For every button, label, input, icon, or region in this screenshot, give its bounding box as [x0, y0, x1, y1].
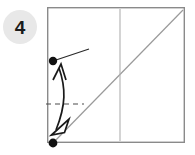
diagram-canvas: 4 — [0, 0, 195, 155]
step-badge-label: 4 — [15, 17, 26, 38]
lower-corner-dot — [49, 139, 58, 148]
origami-step-figure: 4 — [0, 0, 195, 155]
upper-corner-dot — [49, 57, 57, 65]
